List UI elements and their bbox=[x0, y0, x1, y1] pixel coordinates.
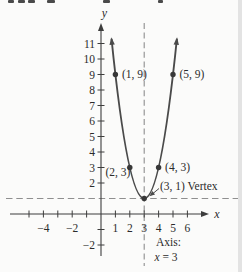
y-tick-label: 3 bbox=[89, 162, 95, 174]
vertex-callout-label: (3, 1) Vertex bbox=[160, 180, 218, 193]
x-axis-arrowhead bbox=[201, 211, 209, 217]
y-tick-label: 8 bbox=[89, 84, 95, 96]
point-label: (4, 3) bbox=[165, 161, 190, 174]
point-label: (2, 3) bbox=[105, 166, 130, 179]
axis-note-line2: x = 3 bbox=[154, 251, 178, 263]
parabola-figure: xy−4−2123456−2234567891011(1, 9)(2, 3)(4… bbox=[0, 0, 242, 272]
x-tick-label: −2 bbox=[66, 222, 78, 234]
data-point bbox=[142, 196, 147, 201]
y-tick-label: −2 bbox=[83, 239, 95, 251]
y-tick-label: 11 bbox=[84, 38, 95, 50]
x-tick-label: 2 bbox=[127, 222, 133, 234]
x-tick-label: 5 bbox=[170, 222, 176, 234]
x-tick-label: 6 bbox=[185, 222, 191, 234]
data-point bbox=[156, 165, 161, 170]
y-tick-label: 5 bbox=[89, 131, 95, 143]
parabola-chart: xy−4−2123456−2234567891011(1, 9)(2, 3)(4… bbox=[0, 0, 242, 272]
curve-arrowhead-right bbox=[174, 37, 179, 45]
data-point bbox=[113, 72, 118, 77]
x-tick-label: 1 bbox=[113, 222, 119, 234]
y-axis-arrowhead bbox=[98, 23, 104, 31]
x-axis-letter: x bbox=[213, 207, 220, 221]
data-point bbox=[170, 72, 175, 77]
y-axis-letter: y bbox=[101, 6, 108, 20]
curve-arrowhead-left bbox=[109, 37, 114, 45]
point-label: (5, 9) bbox=[180, 68, 205, 81]
y-tick-label: 9 bbox=[89, 69, 95, 81]
x-tick-label: 3 bbox=[141, 222, 147, 234]
scan-edge-band bbox=[238, 0, 242, 272]
axis-note-line1: Axis: bbox=[156, 236, 181, 248]
point-label: (1, 9) bbox=[122, 68, 147, 81]
x-tick-label: 4 bbox=[156, 222, 162, 234]
y-tick-label: 10 bbox=[84, 53, 96, 65]
y-tick-label: 7 bbox=[89, 100, 95, 112]
y-tick-label: 6 bbox=[89, 115, 95, 127]
x-tick-label: −4 bbox=[37, 222, 49, 234]
y-tick-label: 4 bbox=[89, 146, 95, 158]
y-tick-label: 2 bbox=[89, 177, 95, 189]
